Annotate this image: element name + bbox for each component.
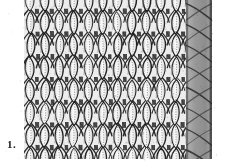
figure-container: 1. [0,0,227,167]
right-margin [212,0,227,167]
selvedge-edge-column [185,0,213,167]
bottom-margin [0,159,227,167]
knitted-fabric-illustration [0,0,227,167]
fabric-body [20,0,214,167]
figure-number-label: 1. [7,138,16,150]
